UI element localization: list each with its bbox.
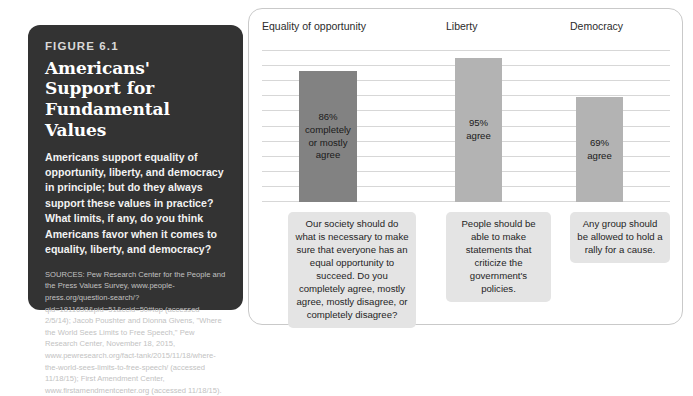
bar-1: 86%completelyor mostlyagree — [299, 71, 357, 202]
figure-sources: SOURCES: Pew Research Center for the Peo… — [45, 269, 227, 396]
gridline — [262, 50, 670, 51]
plot-area: 86%completelyor mostlyagree95%agree69%ag… — [262, 50, 670, 202]
figure-caption-panel: FIGURE 6.1 Americans' Support for Fundam… — [28, 25, 243, 310]
bar-value-label-1: 86%completelyor mostlyagree — [305, 111, 351, 162]
question-box-2: People should be able to make statements… — [446, 212, 551, 302]
figure-title: Americans' Support for Fundamental Value… — [45, 58, 227, 141]
question-box-1: Our society should do what is necessary … — [288, 212, 416, 328]
column-header-2: Liberty — [446, 20, 478, 32]
column-header-1: Equality of opportunity — [262, 20, 366, 32]
bar-value-label-2: 95%agree — [466, 117, 491, 142]
bar-chart: Equality of opportunityLibertyDemocracy … — [262, 20, 670, 315]
figure-description: Americans support equality of opportunit… — [45, 150, 227, 258]
bar-2: 95%agree — [455, 58, 502, 202]
bar-value-label-3: 69%agree — [587, 137, 612, 162]
column-header-3: Democracy — [570, 20, 623, 32]
figure-number: FIGURE 6.1 — [45, 40, 227, 53]
bar-3: 69%agree — [576, 97, 623, 202]
column-headers: Equality of opportunityLibertyDemocracy — [262, 20, 670, 46]
question-box-3: Any group should be allowed to hold a ra… — [570, 212, 670, 263]
